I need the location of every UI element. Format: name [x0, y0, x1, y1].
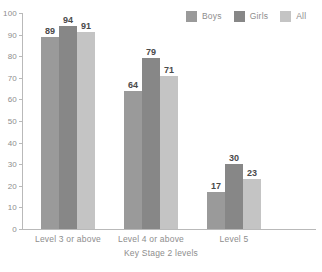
y-axis-tick [19, 78, 22, 79]
y-axis-tick [19, 99, 22, 100]
plot-area: 0102030405060708090100 89949164797117302… [22, 13, 316, 229]
y-axis-tick [19, 143, 22, 144]
bar[interactable]: 64 [124, 91, 142, 229]
y-axis-tick [19, 186, 22, 187]
y-axis-tick [19, 56, 22, 57]
y-axis-tick-label: 80 [8, 52, 17, 61]
y-axis-tick [19, 121, 22, 122]
y-axis-tick [19, 207, 22, 208]
y-axis-tick-label: 40 [8, 138, 17, 147]
bar-value-label: 91 [81, 21, 91, 31]
bar-value-label: 79 [146, 47, 156, 57]
y-axis-tick [19, 35, 22, 36]
y-axis-tick-label: 30 [8, 160, 17, 169]
y-axis-tick-label: 60 [8, 95, 17, 104]
bar-value-label: 89 [45, 26, 55, 36]
y-axis-tick [19, 229, 22, 230]
bar-value-label: 64 [128, 80, 138, 90]
bar[interactable]: 30 [225, 164, 243, 229]
bar[interactable]: 79 [142, 58, 160, 229]
y-axis-tick-label: 20 [8, 181, 17, 190]
bar[interactable]: 17 [207, 192, 225, 229]
bar-value-label: 17 [211, 181, 221, 191]
bar-value-label: 30 [229, 153, 239, 163]
x-axis-line [22, 229, 316, 230]
x-axis-category-label: Level 5 [220, 234, 249, 244]
y-axis-line [22, 13, 23, 229]
y-axis-tick [19, 164, 22, 165]
bar[interactable]: 94 [59, 26, 77, 229]
bar[interactable]: 23 [243, 179, 261, 229]
y-axis-tick [19, 13, 22, 14]
bar-value-label: 23 [247, 168, 257, 178]
x-axis-title: Key Stage 2 levels [0, 248, 322, 258]
bar-value-label: 94 [63, 15, 73, 25]
y-axis-tick-label: 0 [12, 225, 17, 234]
x-axis-category-label: Level 3 or above [35, 234, 101, 244]
y-axis-tick-label: 70 [8, 73, 17, 82]
bar[interactable]: 89 [41, 37, 59, 229]
y-axis-tick-label: 10 [8, 203, 17, 212]
x-axis-category-label: Level 4 or above [118, 234, 184, 244]
bar[interactable]: 71 [160, 76, 178, 229]
y-axis-tick-label: 90 [8, 30, 17, 39]
bar[interactable]: 91 [77, 32, 95, 229]
y-axis-tick-label: 100 [3, 9, 17, 18]
bar-value-label: 71 [164, 65, 174, 75]
bar-chart-screenshot: BoysGirlsAll 0102030405060708090100 8994… [0, 0, 322, 272]
y-axis-tick-label: 50 [8, 117, 17, 126]
